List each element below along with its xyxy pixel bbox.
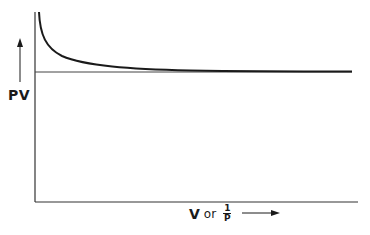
y-arrow-head-icon: [17, 38, 23, 47]
x-label-fraction: 1 P: [223, 204, 231, 223]
x-label-or: or: [204, 207, 216, 221]
x-axis-label: V or 1 P: [189, 204, 231, 223]
x-arrow-head-icon: [271, 210, 280, 216]
chart-canvas: [0, 0, 370, 235]
fraction-denominator: P: [224, 214, 231, 223]
y-axis-label: PV: [8, 87, 30, 103]
x-label-variable: V: [189, 206, 200, 222]
pv-curve: [39, 12, 352, 72]
